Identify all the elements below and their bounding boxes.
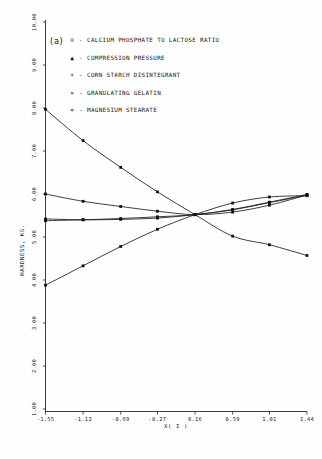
legend-label: GRANULATING GELATIN xyxy=(87,90,161,96)
series-point-marker xyxy=(119,245,122,248)
series-point-marker xyxy=(156,228,159,231)
series-point-marker xyxy=(268,204,271,207)
legend-marker-circle-dot-marker: ⊙ xyxy=(70,36,74,43)
series-point-marker xyxy=(82,264,85,267)
series-point-marker xyxy=(231,202,234,205)
series-point-marker xyxy=(306,194,309,197)
x-tick-label: -1.55 xyxy=(37,416,55,422)
legend-dash: - xyxy=(79,90,83,96)
y-tick-label: 5.00 xyxy=(31,230,37,244)
chart-legend: ⊙-CALCIUM PHOSPHATE TO LACTOSE RATIO▲-CO… xyxy=(70,36,219,113)
y-tick-label: 2.00 xyxy=(31,359,37,373)
figure-panel: 1.002.003.004.005.006.007.008.009.0010.0… xyxy=(0,0,322,459)
series-point-marker xyxy=(194,213,197,216)
legend-label: COMPRESSION PRESSURE xyxy=(87,55,165,61)
series-point-marker xyxy=(82,218,85,221)
series-point-marker xyxy=(44,193,47,196)
series-point-marker xyxy=(268,243,271,246)
x-axis-title: X( I ) xyxy=(164,423,188,429)
legend-dash: - xyxy=(79,37,83,43)
line-chart: 1.002.003.004.005.006.007.008.009.0010.0… xyxy=(0,0,322,459)
y-tick-label: 3.00 xyxy=(31,316,37,330)
legend-dash: - xyxy=(79,72,83,78)
x-axis-ticks: -1.55-1.12-0.69-0.270.160.591.011.44 xyxy=(37,412,314,423)
series-point-marker xyxy=(156,190,159,193)
legend-marker-plus-marker: + xyxy=(70,71,74,78)
series-calcium-phosphate-to-lactose-ratio xyxy=(44,108,308,257)
series-point-marker xyxy=(82,200,85,203)
series-point-marker xyxy=(119,166,122,169)
legend-marker-cross-marker: × xyxy=(70,89,74,96)
legend-label: CORN STARCH DISINTEGRANT xyxy=(87,72,181,78)
series-point-marker xyxy=(231,235,234,238)
x-tick-label: -0.27 xyxy=(149,416,167,422)
legend-dash: - xyxy=(79,55,83,61)
x-tick-label: 0.59 xyxy=(226,416,240,422)
y-tick-label: 6.00 xyxy=(31,187,37,201)
x-tick-label: 1.44 xyxy=(300,416,314,422)
series-line xyxy=(46,196,308,285)
legend-marker-triangle-marker: ▲ xyxy=(70,54,74,61)
y-axis-ticks: 1.002.003.004.005.006.007.008.009.0010.0… xyxy=(31,13,46,416)
series-point-marker xyxy=(231,208,234,211)
series-point-marker xyxy=(268,196,271,199)
legend-marker-diamond-marker: ✡ xyxy=(70,106,74,113)
x-tick-label: -1.12 xyxy=(74,416,92,422)
series-point-marker xyxy=(119,217,122,220)
series-point-marker xyxy=(156,210,159,213)
x-tick-label: 0.16 xyxy=(188,416,202,422)
series-point-marker xyxy=(44,284,47,287)
series-line xyxy=(46,109,308,255)
series-point-marker xyxy=(82,139,85,142)
chart-series xyxy=(44,108,308,287)
y-tick-label: 7.00 xyxy=(31,144,37,158)
x-tick-label: 1.01 xyxy=(262,416,276,422)
series-point-marker xyxy=(44,108,47,111)
y-tick-label: 10.00 xyxy=(31,13,37,31)
legend-label: CALCIUM PHOSPHATE TO LACTOSE RATIO xyxy=(87,37,220,43)
series-point-marker xyxy=(119,205,122,208)
series-point-marker xyxy=(44,219,47,222)
y-tick-label: 4.00 xyxy=(31,273,37,287)
y-axis-title: HARDNESS, KG. xyxy=(19,224,25,276)
legend-label: MAGNESIUM STEARATE xyxy=(87,107,157,113)
y-tick-label: 1.00 xyxy=(31,402,37,416)
series-magnesium-stearate xyxy=(44,194,308,286)
y-tick-label: 9.00 xyxy=(31,58,37,72)
legend-dash: - xyxy=(79,107,83,113)
series-point-marker xyxy=(306,254,309,257)
series-point-marker xyxy=(156,215,159,218)
y-tick-label: 8.00 xyxy=(31,101,37,115)
x-tick-label: -0.69 xyxy=(112,416,130,422)
series-point-marker xyxy=(268,201,271,204)
series-point-marker xyxy=(231,211,234,214)
panel-label: (a) xyxy=(49,36,64,46)
